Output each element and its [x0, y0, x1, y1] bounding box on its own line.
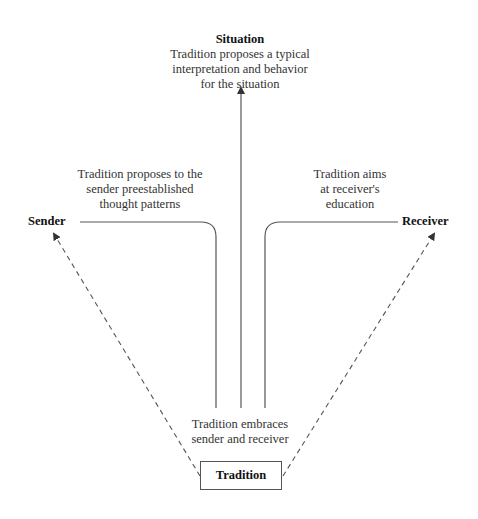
receiver-annotation-line-3: education — [300, 197, 400, 212]
tradition-box: Tradition — [200, 461, 282, 490]
situation-line-3: for the situation — [140, 77, 340, 92]
tradition-label: Tradition — [216, 468, 266, 483]
situation-line-1: Tradition proposes a typical — [140, 47, 340, 62]
sender-annotation-line-2: sender preestablished — [60, 182, 220, 197]
receiver-annotation-line-1: Tradition aims — [300, 167, 400, 182]
embrace-line-1: Tradition embraces — [160, 417, 320, 432]
sender-annotation-line-3: thought patterns — [60, 197, 220, 212]
embrace-annotation: Tradition embraces sender and receiver — [160, 417, 320, 447]
sender-label: Sender — [28, 214, 78, 229]
sender-annotation-line-1: Tradition proposes to the — [60, 167, 220, 182]
embrace-line-2: sender and receiver — [160, 432, 320, 447]
situation-line-2: interpretation and behavior — [140, 62, 340, 77]
receiver-label: Receiver — [402, 214, 462, 229]
situation-node: Situation Tradition proposes a typical i… — [140, 32, 340, 92]
sender-annotation: Tradition proposes to the sender preesta… — [60, 167, 220, 212]
sender-line — [80, 222, 216, 408]
receiver-line — [265, 222, 398, 408]
receiver-annotation: Tradition aims at receiver's education — [300, 167, 400, 212]
situation-title: Situation — [140, 32, 340, 47]
receiver-annotation-line-2: at receiver's — [300, 182, 400, 197]
